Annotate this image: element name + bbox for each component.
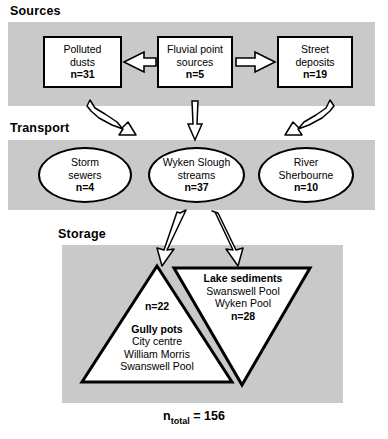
source-line-2: deposits <box>295 56 334 69</box>
storage-label-gully-pots: n=22 Gully pots City centre William Morr… <box>66 300 248 373</box>
transport-count: n=37 <box>184 181 208 194</box>
lake-sediments-title: Lake sediments <box>178 272 308 285</box>
total-count-label: ntotal = 156 <box>0 409 388 426</box>
transport-line-1: Wyken Slough <box>163 156 231 169</box>
transport-ellipse-wyken-slough-streams: Wyken Slough streams n=37 <box>148 147 245 203</box>
source-line-2: dusts <box>70 56 95 69</box>
source-count: n=31 <box>70 68 94 81</box>
total-prefix: n <box>163 409 171 423</box>
source-box-fluvial-point-sources: Fluvial point sources n=5 <box>157 36 233 88</box>
transport-line-1: Storm <box>71 156 99 169</box>
source-line-1: Polluted <box>64 43 102 56</box>
section-label-storage: Storage <box>58 227 106 241</box>
flow-diagram: Sources Transport Storage Polluted dusts… <box>0 0 388 439</box>
source-box-polluted-dusts: Polluted dusts n=31 <box>43 36 122 88</box>
source-line-1: Street <box>301 43 329 56</box>
transport-line-2: Sherbourne <box>279 169 334 182</box>
source-count: n=5 <box>186 68 204 81</box>
total-subscript: total <box>171 416 190 426</box>
source-line-1: Fluvial point <box>167 43 223 56</box>
section-label-transport: Transport <box>10 121 69 135</box>
transport-line-2: streams <box>178 169 215 182</box>
gully-pots-count: n=22 <box>66 300 248 313</box>
gully-pots-site-3: Swanswell Pool <box>66 360 248 373</box>
transport-count: n=10 <box>294 181 318 194</box>
source-count: n=19 <box>303 68 327 81</box>
section-label-sources: Sources <box>10 4 61 18</box>
arrow-fluvial-to-wyken <box>188 101 202 140</box>
transport-line-1: River <box>294 156 319 169</box>
source-line-2: sources <box>177 56 214 69</box>
transport-ellipse-storm-sewers: Storm sewers n=4 <box>38 147 132 203</box>
source-box-street-deposits: Street deposits n=19 <box>277 36 353 88</box>
lake-sediments-site-1: Swanswell Pool <box>178 285 308 298</box>
gully-pots-title: Gully pots <box>66 323 248 336</box>
transport-ellipse-river-sherbourne: River Sherbourne n=10 <box>258 147 354 203</box>
gully-pots-site-2: William Morris <box>66 348 248 361</box>
transport-count: n=4 <box>76 181 94 194</box>
total-value: 156 <box>204 409 225 423</box>
total-equals: = <box>193 409 200 423</box>
transport-line-2: sewers <box>68 169 101 182</box>
gully-pots-site-1: City centre <box>66 335 248 348</box>
